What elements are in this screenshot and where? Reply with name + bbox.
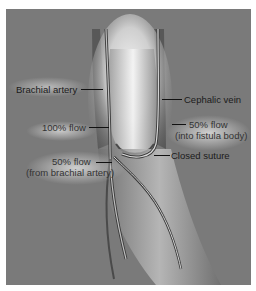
label-cephalic-vein: Cephalic vein — [184, 94, 241, 105]
label-flow-100: 100% flow — [42, 122, 86, 133]
leader-brachial-artery — [81, 89, 103, 90]
leader-cephalic-vein — [162, 99, 182, 100]
label-brachial-artery: Brachial artery — [16, 84, 77, 95]
leader-flow-50-fistula — [172, 124, 186, 125]
leader-closed-suture — [154, 155, 170, 156]
label-flow-50-fistula-line1: 50% flow — [189, 119, 228, 130]
fistula-illustration: Brachial artery Cephalic vein 100% flow … — [6, 9, 251, 285]
leader-flow-50-brachial — [96, 162, 112, 163]
label-closed-suture: Closed suture — [171, 150, 230, 161]
arm-vessel-drawing — [6, 9, 251, 285]
label-flow-50-fistula-line2: (into fistula body) — [175, 130, 247, 141]
label-flow-50-brachial-line2: (from brachial artery) — [26, 167, 114, 178]
leader-flow-100 — [89, 127, 109, 128]
label-flow-50-brachial-line1: 50% flow — [52, 156, 91, 167]
